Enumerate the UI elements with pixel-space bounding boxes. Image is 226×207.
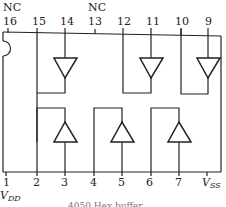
pin-label-2: 2	[33, 176, 40, 189]
buffer-bottom-3	[151, 108, 191, 176]
pin-label-14: 14	[60, 15, 74, 28]
pin-label-4: 4	[90, 176, 97, 189]
buffer-bottom-2	[94, 108, 134, 176]
pinout-drawing: NC NC 16 15 14 13 12 11 10 9 1 2 3 4 5 6…	[0, 0, 226, 207]
pin-label-15: 15	[32, 15, 46, 28]
vdd-label: VDD	[0, 189, 21, 203]
buffer-top-2	[123, 28, 163, 93]
buffer-bottom-1	[37, 108, 77, 176]
pin-label-11: 11	[146, 15, 160, 28]
pin-label-13: 13	[88, 15, 102, 28]
caption: 4050 Hex buffer	[68, 201, 143, 207]
pin-label-5: 5	[118, 176, 125, 189]
pin-label-7: 7	[175, 176, 182, 189]
nc-label-13: NC	[88, 1, 106, 14]
pin-label-9: 9	[205, 15, 212, 28]
buffer-top-1	[37, 28, 77, 142]
pin-label-10: 10	[175, 15, 189, 28]
pin-label-1: 1	[3, 176, 10, 189]
chip-body	[3, 32, 221, 172]
vss-label: VSS	[202, 176, 221, 190]
pin-label-3: 3	[61, 176, 68, 189]
pin-label-6: 6	[146, 176, 153, 189]
pin-label-12: 12	[117, 15, 131, 28]
buffer-top-3	[181, 28, 220, 94]
nc-label-16: NC	[3, 1, 21, 14]
pin-label-16: 16	[3, 15, 17, 28]
chip-notch	[3, 41, 11, 56]
